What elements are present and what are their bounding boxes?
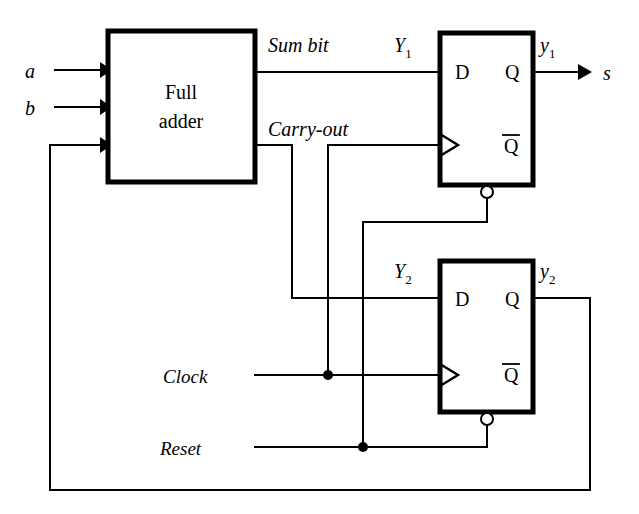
flip-flop-1-qbar-label: Q	[504, 135, 519, 157]
input-a-wire	[55, 62, 112, 78]
input-b-label: b	[25, 97, 35, 119]
carry-out-label: Carry-out	[268, 118, 348, 141]
flip-flop-2-q-label: Q	[505, 288, 520, 310]
flip-flop-1-qbar: Q	[503, 135, 519, 157]
reset-junction-dot	[358, 442, 368, 452]
y-big-2-label: Y2	[394, 260, 412, 287]
clock-junction-dot	[323, 370, 333, 380]
output-s-label: s	[603, 62, 611, 84]
flip-flop-2-reset-bubble	[481, 413, 493, 425]
full-adder-label-line1: Full	[165, 81, 198, 103]
y-big-1-label: Y1	[394, 34, 412, 61]
input-b-wire	[55, 99, 112, 115]
clock-wire	[255, 145, 440, 380]
flip-flop-2-qbar: Q	[503, 364, 519, 386]
circuit-canvas: a b Full adder Sum bit Carry-out Y1 Y2 D…	[0, 0, 639, 514]
flip-flop-2-d-label: D	[455, 288, 469, 310]
flip-flop-1-block	[440, 33, 533, 185]
full-adder-label-line2: adder	[159, 110, 204, 132]
circuit-diagram: a b Full adder Sum bit Carry-out Y1 Y2 D…	[0, 0, 639, 514]
output-s-wire	[533, 64, 592, 80]
input-reset-label: Reset	[159, 438, 202, 459]
y-small-1-label: y1	[538, 34, 555, 61]
input-clock-label: Clock	[163, 366, 208, 387]
flip-flop-2-qbar-label: Q	[504, 364, 519, 386]
feedback-input-wire	[50, 137, 112, 153]
flip-flop-1-q-label: Q	[505, 61, 520, 83]
input-a-label: a	[25, 60, 35, 82]
flip-flop-1-reset-bubble	[481, 186, 493, 198]
full-adder-block	[108, 31, 255, 182]
y-small-2-label: y2	[538, 260, 555, 287]
flip-flop-2-block	[440, 261, 533, 412]
flip-flop-1-d-label: D	[455, 61, 469, 83]
sum-bit-label: Sum bit	[268, 34, 329, 56]
